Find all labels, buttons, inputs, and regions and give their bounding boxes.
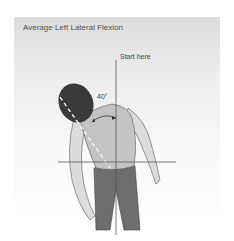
angle-label: 40°: [97, 93, 108, 100]
start-here-label: Start here: [120, 53, 151, 60]
pants-shape: [94, 165, 140, 230]
lateral-flexion-illustration: [0, 0, 234, 241]
